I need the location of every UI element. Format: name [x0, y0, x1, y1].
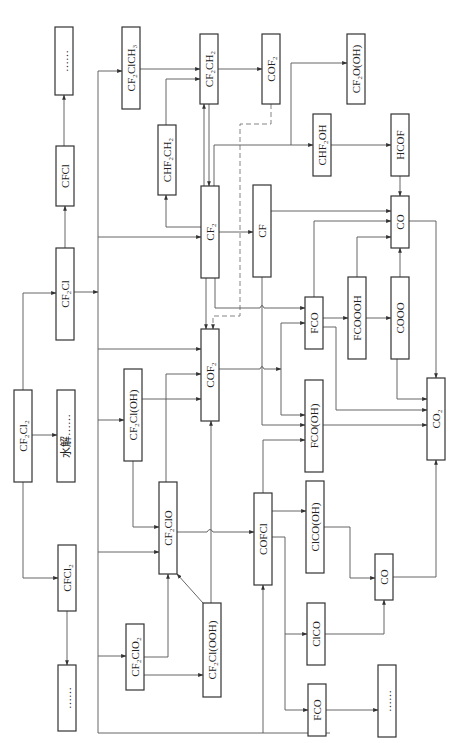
edge-branch-fcooh — [281, 369, 305, 415]
edge-chf2ch2-cf2ch2 — [166, 79, 200, 125]
edge-cf2clo-cofcl — [177, 530, 254, 533]
node-chf2oh: CHF₂OH — [313, 114, 331, 176]
node-label: FCO(OH) — [308, 403, 321, 448]
node-co2: CO₂ — [427, 378, 445, 460]
edge-fco-co2 — [323, 327, 427, 410]
edge-cf2cl2-cfcl2 — [23, 482, 58, 578]
node-label: CF₂Cl₂ — [17, 420, 29, 452]
node-label: COOO — [394, 302, 406, 333]
edge-cf2clo2-cf2clo — [144, 574, 168, 657]
node-cfcl2: CFCl₂ — [58, 545, 76, 611]
node-label: 水解…… — [59, 414, 72, 458]
node-co_top: CO — [391, 196, 409, 248]
node-label: FCO — [308, 312, 320, 333]
node-hydrolysis: 水解…… — [57, 390, 75, 482]
node-fco_bot: FCO — [308, 684, 326, 736]
node-label: CFCl₂ — [61, 564, 73, 592]
node-label: CF₂O(OH) — [350, 44, 363, 93]
edge-cof2-branch — [219, 367, 281, 370]
node-cf2clo: CF₂ClO — [159, 482, 177, 574]
node-label: HCOF — [394, 130, 406, 159]
edge-cf2cloh-cf2clo — [133, 461, 159, 527]
edge-cf-fcooh — [262, 277, 305, 425]
node-fcooh: FCO(OH) — [305, 380, 323, 472]
edge-cotop-co2 — [409, 221, 436, 378]
node-label: CF₂Cl — [59, 280, 71, 308]
node-cf2cl2: CF₂Cl₂ — [14, 390, 32, 482]
node-dots1: …… — [55, 27, 73, 95]
node-cf2clo2: CF₂ClO₂ — [126, 624, 144, 690]
node-label: CF₂ClCH₃ — [125, 44, 137, 91]
node-clco: ClCO — [307, 603, 325, 665]
node-label: COF₂ — [204, 362, 216, 387]
edge-cofcl-fcooh — [263, 440, 305, 493]
edge-cofcl-fcobot — [285, 634, 308, 710]
edge-cf2-chf2ch2 — [166, 195, 201, 227]
node-label: CF₂Cl(OOH) — [206, 620, 219, 679]
node-dots2: …… — [58, 665, 76, 731]
edge-fcoooh-cotop — [357, 237, 391, 277]
node-label: CO — [394, 214, 406, 229]
node-label: COF₂ — [265, 56, 277, 81]
node-cf2ooh: CF₂O(OH) — [347, 34, 365, 104]
node-cof2_top: COF₂ — [262, 34, 280, 104]
node-fcoooh: FCOOOH — [348, 277, 366, 359]
nodes: CF₂Cl₂水解……CF₂ClCFCl……CFCl₂……CF₂ClCH₃CHF₂… — [14, 27, 445, 737]
node-hcof: HCOF — [391, 114, 409, 176]
node-label: …… — [381, 690, 393, 712]
node-cf2clooh: CF₂Cl(OOH) — [203, 603, 221, 697]
node-label: COFCl — [257, 523, 269, 555]
edge-clco-cobot — [325, 600, 384, 634]
edge-cf2clooh-cf2clo — [177, 574, 203, 603]
node-label: FCOOOH — [351, 295, 363, 340]
node-label: FCO — [311, 699, 323, 720]
node-cofcl: COFCl — [254, 493, 272, 585]
node-co_bot: CO — [375, 554, 393, 600]
edge-cf2-fco — [215, 278, 305, 308]
edge-cooo-co2 — [397, 359, 427, 399]
node-cf2cloh: CF₂Cl(OH) — [124, 369, 142, 461]
edge-cf2-chf2oh — [214, 145, 313, 186]
node-label: CF — [256, 224, 268, 237]
node-dots3: …… — [378, 665, 396, 737]
node-label: CF₂Cl(OH) — [127, 389, 140, 440]
node-fco: FCO — [305, 297, 323, 349]
node-clcooh: ClCO(OH) — [306, 481, 324, 573]
edges — [23, 63, 436, 733]
node-chf2ch2: CHF₂CH₂ — [158, 125, 176, 195]
node-label: CFCl — [59, 164, 71, 188]
node-label: CF₂CH₂ — [203, 51, 215, 88]
node-label: CHF₂CH₂ — [161, 138, 173, 183]
node-label: …… — [58, 50, 70, 72]
node-label: CO — [378, 569, 390, 584]
node-cf2ch2: CF₂CH₂ — [200, 34, 218, 104]
node-cof2: COF₂ — [201, 329, 219, 421]
node-label: …… — [61, 687, 73, 709]
edge-clcooh-cobot — [324, 527, 375, 578]
node-label: CF₂ClO — [162, 510, 174, 546]
node-label: CF₂ClO₂ — [129, 637, 141, 677]
node-cf2clch3: CF₂ClCH₃ — [122, 27, 140, 109]
node-label: CF₂ — [204, 223, 216, 240]
edge-cobot-co2 — [393, 460, 436, 577]
node-cooo: COOO — [391, 277, 409, 359]
edge-cf2clo-cof2 — [166, 374, 201, 482]
edge-cf2cl2-cf2cl — [23, 293, 56, 390]
edge-branch-fco — [281, 323, 305, 369]
node-label: CO₂ — [430, 409, 442, 428]
node-cfcl: CFCl — [56, 146, 74, 206]
node-label: ClCO(OH) — [309, 502, 322, 551]
node-cf: CF — [253, 185, 271, 277]
edge-cofcl-clco — [272, 537, 307, 634]
reaction-pathway-diagram: CF₂Cl₂水解……CF₂ClCFCl……CFCl₂……CF₂ClCH₃CHF₂… — [0, 0, 464, 743]
node-cf2: CF₂ — [201, 186, 219, 278]
node-cf2cl: CF₂Cl — [56, 248, 74, 340]
node-label: ClCO — [310, 621, 322, 647]
node-label: CHF₂OH — [316, 124, 328, 165]
